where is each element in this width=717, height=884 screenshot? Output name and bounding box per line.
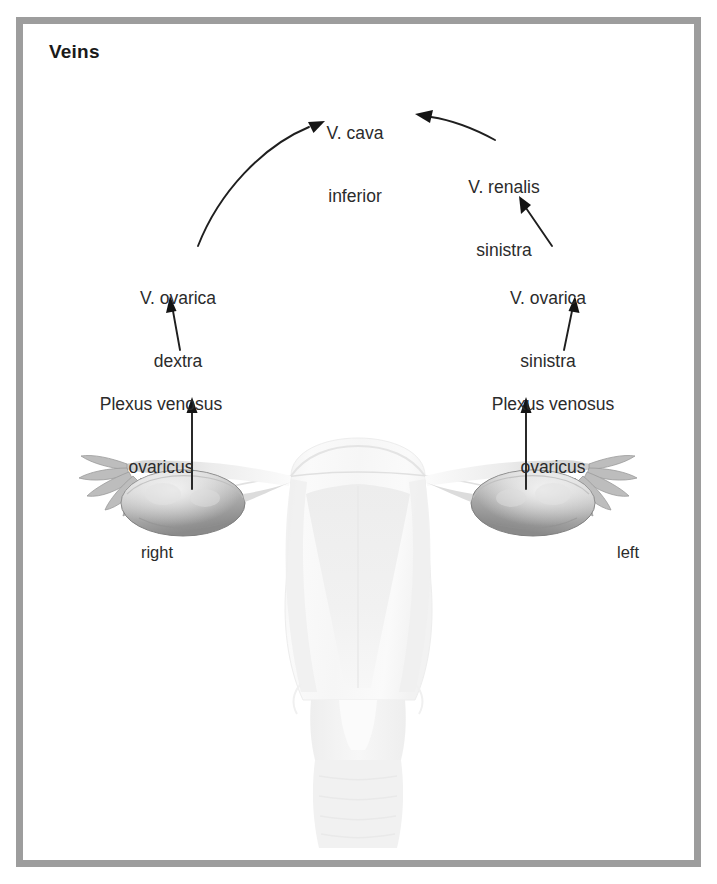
label-vena-cava-inferior-line1: V. cava <box>275 123 435 144</box>
label-side-left: left <box>568 543 688 562</box>
label-layer: Veins V. cava inferior V. renalis sinist… <box>23 24 694 860</box>
figure-frame: Veins V. cava inferior V. renalis sinist… <box>16 17 701 867</box>
label-vena-cava-inferior-line2: inferior <box>275 186 435 207</box>
label-plexus-venosus-ovaricus-right: Plexus venosus ovaricus <box>61 352 261 520</box>
label-plexus-venosus-ovaricus-right-line2: ovaricus <box>61 457 261 478</box>
label-plexus-venosus-ovaricus-left-line1: Plexus venosus <box>453 394 653 415</box>
label-plexus-venosus-ovaricus-left: Plexus venosus ovaricus <box>453 352 653 520</box>
label-vena-cava-inferior: V. cava inferior <box>275 81 435 249</box>
label-plexus-venosus-ovaricus-left-line2: ovaricus <box>453 457 653 478</box>
label-plexus-venosus-ovaricus-right-line1: Plexus venosus <box>61 394 261 415</box>
label-side-right: right <box>97 543 217 562</box>
figure-canvas: Veins V. cava inferior V. renalis sinist… <box>23 24 694 860</box>
label-vena-ovarica-dextra-line1: V. ovarica <box>83 288 273 309</box>
label-vena-ovarica-sinistra-line1: V. ovarica <box>453 288 643 309</box>
figure-title: Veins <box>49 41 100 63</box>
label-vena-renalis-sinistra-line1: V. renalis <box>419 177 589 198</box>
